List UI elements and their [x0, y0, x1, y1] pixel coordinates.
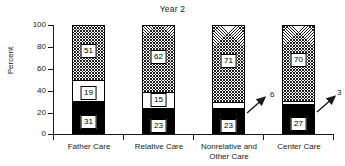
- bar-value-top: 62: [150, 50, 167, 64]
- x-tick-0: [53, 135, 54, 140]
- y-tick-40: [48, 91, 53, 92]
- x-tick-2: [193, 135, 194, 140]
- bar-value-top: 51: [80, 44, 97, 58]
- x-category-label-center-care: Center Care: [259, 142, 339, 152]
- bar-value-middle: 15: [150, 93, 167, 107]
- y-axis-label: Percent: [6, 31, 15, 91]
- y-tick-label-40: 40: [20, 86, 46, 95]
- y-tick-label-60: 60: [20, 64, 46, 73]
- bar-value-top: 70: [290, 53, 307, 67]
- bar-value-bottom: 23: [220, 119, 237, 133]
- bar-value-bottom: 27: [290, 117, 307, 131]
- x-category-line2: Other Care: [187, 152, 271, 162]
- bar-value-top: 71: [220, 54, 237, 68]
- x-category-label-father-care: Father Care: [49, 142, 129, 152]
- y-tick-label-80: 80: [20, 42, 46, 51]
- y-tick-20: [48, 113, 53, 114]
- y-tick-label-100: 100: [20, 20, 46, 29]
- bar-nonrelative-other-care[interactable]: [212, 25, 245, 134]
- bar-value-bottom: 31: [80, 115, 97, 129]
- callout-arrow-6: [245, 95, 269, 115]
- chart-title: Year 2: [0, 4, 345, 14]
- callout-arrow-3: [315, 94, 339, 114]
- chart-figure: Year 2 Percent 100 80 60 40 20 0 51 19 3…: [0, 0, 345, 166]
- bar-segment-middle: [212, 102, 245, 109]
- bar-value-bottom: 23: [150, 119, 167, 133]
- x-tick-1: [123, 135, 124, 140]
- y-axis-line: [53, 25, 54, 135]
- y-tick-60: [48, 69, 53, 70]
- y-tick-label-20: 20: [20, 108, 46, 117]
- x-category-line1: Center Care: [259, 142, 339, 152]
- callout-label-3: 3: [337, 88, 341, 97]
- bar-value-middle: 19: [80, 86, 97, 100]
- y-tick-80: [48, 47, 53, 48]
- x-tick-3: [263, 135, 264, 140]
- x-category-line1: Father Care: [49, 142, 129, 152]
- y-tick-label-0: 0: [20, 129, 46, 138]
- callout-label-6: 6: [270, 90, 274, 99]
- bar-relative-care[interactable]: [142, 25, 175, 134]
- x-tick-4: [333, 135, 334, 140]
- y-tick-100: [48, 25, 53, 26]
